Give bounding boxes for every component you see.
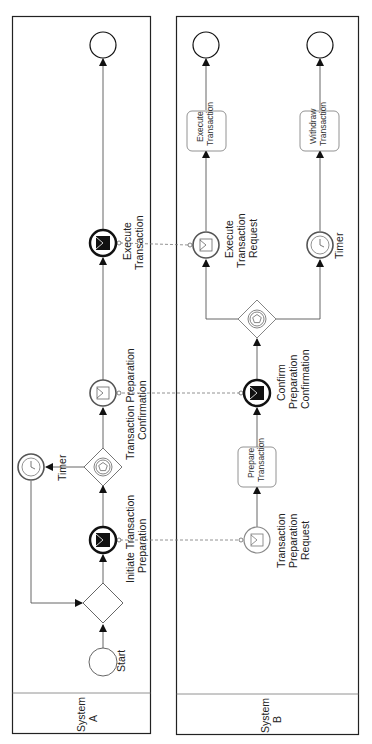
execute-request-label: Execute Transaction Request: [223, 211, 259, 268]
flow-timer-to-gateway: [31, 481, 82, 603]
pool-b-label: System B: [259, 695, 283, 733]
event-based-gateway-a[interactable]: [84, 448, 122, 486]
confirm-preparation-label: Confirm Preparation Confirmation: [275, 349, 311, 409]
execute-transaction-request-event[interactable]: [193, 232, 219, 258]
flow-gateway-to-exec-request: [206, 260, 238, 319]
execute-transaction-task-label: Execute Transaction: [195, 102, 215, 146]
timer-a-label: Timer: [56, 454, 68, 481]
transaction-preparation-confirmation-event[interactable]: [90, 380, 116, 406]
event-based-gateway-b[interactable]: [238, 300, 276, 338]
execute-transaction-event[interactable]: [90, 230, 116, 256]
prepare-transaction-task[interactable]: Prepare Transaction: [238, 438, 276, 487]
initiate-transaction-preparation-event[interactable]: [90, 527, 116, 553]
end-event-b-withdraw[interactable]: [307, 32, 333, 58]
timer-event-a[interactable]: [18, 454, 44, 480]
prepare-transaction-label: Prepare Transaction: [246, 438, 266, 482]
start-event[interactable]: [89, 648, 117, 676]
end-event-b-execute[interactable]: [193, 32, 219, 58]
start-event-label: Start: [115, 650, 127, 672]
execute-transaction-label: Execute Transaction: [121, 215, 145, 270]
preparation-request-label: Transaction Preparation Request: [275, 511, 311, 568]
sequence-flows-a: [31, 59, 103, 648]
end-event-a[interactable]: [90, 32, 116, 58]
withdraw-transaction-task-label: Withdraw Transaction: [308, 102, 328, 146]
flow-gateway-to-timer: [276, 260, 320, 319]
initiate-label: Initiate Transaction Preparation: [124, 492, 148, 583]
withdraw-transaction-task[interactable]: Withdraw Transaction: [300, 102, 339, 151]
bpmn-diagram: System A System B: [0, 0, 372, 744]
exclusive-gateway[interactable]: [83, 583, 123, 623]
confirmation-label: Transaction Preparation Confirmation: [124, 345, 148, 460]
execute-transaction-task[interactable]: Execute Transaction: [187, 102, 226, 151]
timer-event-b[interactable]: [307, 232, 333, 258]
pool-a-label: System A: [75, 694, 99, 732]
timer-b-label: Timer: [333, 232, 345, 259]
confirm-preparation-confirmation-event[interactable]: [244, 380, 270, 406]
transaction-preparation-request-event[interactable]: [244, 527, 270, 553]
